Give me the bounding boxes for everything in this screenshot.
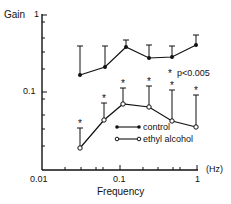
x-tick-0.01: 0.01	[30, 174, 48, 184]
x-axis-label: Frequency	[97, 186, 144, 197]
svg-text:*: *	[147, 76, 151, 87]
legend-control: control	[143, 122, 170, 132]
svg-text:*: *	[102, 93, 106, 104]
y-tick-1: 1	[34, 9, 39, 19]
svg-text:*: *	[194, 85, 198, 96]
y-tick-0.1: 0.1	[23, 86, 36, 96]
svg-text:*: *	[121, 78, 125, 89]
legend-lines	[117, 127, 139, 139]
x-unit-label: (Hz)	[206, 164, 223, 174]
svg-text:*: *	[168, 68, 172, 79]
legend-ethanol: ethyl alcohol	[143, 134, 193, 144]
x-tick-0.1: 0.1	[113, 174, 126, 184]
y-ticks	[42, 15, 47, 146]
svg-text:*: *	[78, 118, 82, 129]
x-ticks	[65, 165, 197, 170]
svg-text:*: *	[170, 80, 174, 91]
significance-annotation: p<0.005	[177, 68, 210, 78]
axes	[42, 14, 198, 170]
y-axis-label: Gain	[4, 9, 25, 20]
x-tick-1: 1	[195, 174, 200, 184]
